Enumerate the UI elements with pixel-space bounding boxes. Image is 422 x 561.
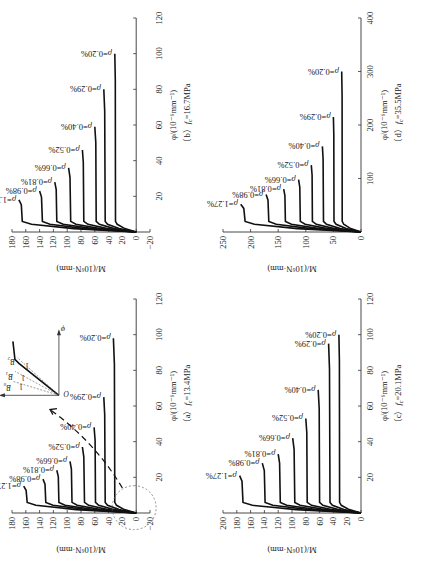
series-label: ρ=0.66% bbox=[35, 163, 67, 173]
series-label: ρ=0.81% bbox=[21, 177, 53, 187]
series-label: ρ=0.20% bbox=[305, 330, 337, 340]
y-tick-label: 200 bbox=[218, 517, 228, 530]
panel-d: 050100150200250100200300400M/(10⁶N·mm)φ/… bbox=[211, 0, 422, 280]
y-tick-label: 60 bbox=[315, 517, 325, 526]
y-tick-label: 140 bbox=[259, 517, 269, 530]
y-tick-label: 0 bbox=[131, 236, 141, 240]
x-tick-label: 20 bbox=[154, 192, 164, 201]
x-axis-label: φ/(10⁻⁶mm⁻¹) bbox=[168, 90, 178, 140]
y-tick-label: 0 bbox=[131, 517, 141, 521]
series-label: ρ=0.66% bbox=[265, 175, 297, 185]
series-label: ρ=0.52% bbox=[49, 145, 81, 155]
series-line bbox=[113, 338, 136, 513]
x-tick-label: 60 bbox=[365, 402, 375, 411]
y-tick-label: 140 bbox=[35, 236, 45, 249]
chart-b: −200204060801001201401601802040608010012… bbox=[0, 0, 211, 280]
x-tick-label: 40 bbox=[365, 437, 375, 446]
y-tick-label: 160 bbox=[21, 236, 31, 249]
y-tick-label: 120 bbox=[48, 517, 58, 530]
y-tick-label: 100 bbox=[301, 236, 311, 249]
x-tick-label: 40 bbox=[154, 437, 164, 446]
y-tick-label: 20 bbox=[342, 517, 352, 526]
x-tick-label: 100 bbox=[365, 172, 375, 185]
series-line bbox=[69, 168, 137, 232]
series-label: ρ=0.20% bbox=[80, 333, 112, 343]
series-label: ρ=0.29% bbox=[300, 112, 332, 122]
panel-caption: （a）fc=13.4MPa bbox=[182, 364, 193, 427]
y-axis-label: M/(10⁶N·mm) bbox=[56, 545, 105, 555]
series-label: ρ=0.81% bbox=[244, 449, 276, 459]
series-line bbox=[82, 447, 136, 513]
svg-text:φ: φ bbox=[61, 325, 65, 334]
series-label: ρ=0.66% bbox=[259, 433, 291, 443]
x-tick-label: 40 bbox=[154, 156, 164, 165]
x-tick-label: 100 bbox=[365, 328, 375, 341]
y-tick-label: 80 bbox=[76, 236, 86, 245]
y-tick-label: 60 bbox=[90, 236, 100, 245]
y-tick-label: 0 bbox=[356, 236, 366, 240]
series-line bbox=[104, 397, 136, 513]
series-line bbox=[82, 150, 136, 232]
y-tick-label: 120 bbox=[48, 236, 58, 249]
x-tick-label: 120 bbox=[154, 12, 164, 25]
y-tick-label: 100 bbox=[287, 517, 297, 530]
y-tick-label: 40 bbox=[104, 236, 114, 245]
series-label: ρ=1.27% bbox=[206, 471, 238, 481]
y-tick-label: 120 bbox=[273, 517, 283, 530]
x-tick-label: 60 bbox=[154, 402, 164, 411]
y-tick-label: 0 bbox=[356, 517, 366, 521]
y-tick-label: 100 bbox=[62, 236, 72, 249]
series-line bbox=[115, 54, 136, 232]
panel-caption: （c）fc=20.1MPa bbox=[393, 364, 404, 427]
chart-c: 0204060801001201401601802002040608010012… bbox=[211, 281, 422, 561]
y-tick-label: 250 bbox=[218, 236, 228, 249]
series-line bbox=[342, 72, 361, 233]
y-tick-label: 200 bbox=[246, 236, 256, 249]
y-tick-label: 180 bbox=[232, 517, 242, 530]
y-tick-label: 20 bbox=[117, 517, 127, 526]
x-tick-label: 80 bbox=[365, 366, 375, 375]
x-axis-label: φ/(10⁻⁶mm⁻¹) bbox=[379, 371, 389, 421]
y-tick-label: 100 bbox=[62, 517, 72, 530]
y-tick-label: −20 bbox=[145, 236, 155, 249]
series-label: ρ=0.52% bbox=[49, 442, 81, 452]
chart-d: 050100150200250100200300400M/(10⁶N·mm)φ/… bbox=[211, 0, 422, 280]
series-label: ρ=0.81% bbox=[250, 184, 282, 194]
x-tick-label: 60 bbox=[154, 121, 164, 130]
y-axis-label: M/(10⁶N·mm) bbox=[267, 545, 316, 555]
panel-caption: （d）fc=35.5MPa bbox=[393, 83, 404, 146]
y-tick-label: 20 bbox=[117, 236, 127, 245]
y-tick-label: 40 bbox=[328, 517, 338, 526]
x-axis-label: φ/(10⁻⁶mm⁻¹) bbox=[168, 371, 178, 421]
x-tick-label: 80 bbox=[154, 366, 164, 375]
x-tick-label: 100 bbox=[154, 328, 164, 341]
series-line bbox=[333, 117, 361, 232]
x-tick-label: 120 bbox=[154, 293, 164, 306]
y-axis-label: M/(10⁶N·mm) bbox=[56, 264, 105, 274]
inset-diagram: MφOB₀B₁B₂111 bbox=[0, 325, 69, 406]
y-tick-label: 150 bbox=[273, 236, 283, 249]
panel-caption: （b）fc=16.7MPa bbox=[182, 83, 193, 146]
svg-text:1: 1 bbox=[21, 373, 25, 382]
series-label: ρ=0.40% bbox=[61, 122, 93, 132]
series-line bbox=[339, 335, 361, 513]
series-label: ρ=0.20% bbox=[308, 67, 340, 77]
series-line bbox=[299, 180, 361, 232]
svg-text:B₁: B₁ bbox=[5, 372, 13, 381]
series-line bbox=[293, 438, 361, 513]
y-axis-label: M/(10⁶N·mm) bbox=[267, 264, 316, 274]
y-tick-label: −20 bbox=[145, 517, 155, 530]
y-tick-label: 80 bbox=[301, 517, 311, 526]
x-tick-label: 200 bbox=[365, 119, 375, 132]
svg-text:1: 1 bbox=[25, 361, 29, 370]
x-tick-label: 120 bbox=[365, 293, 375, 306]
series-label: ρ=0.20% bbox=[81, 49, 113, 59]
x-tick-label: 20 bbox=[365, 473, 375, 482]
series-label: ρ=1.27% bbox=[207, 199, 239, 209]
x-tick-label: 300 bbox=[365, 65, 375, 78]
series-label: ρ=0.40% bbox=[284, 385, 316, 395]
series-label: ρ=0.66% bbox=[36, 456, 68, 466]
y-tick-label: 180 bbox=[7, 236, 17, 249]
chart-a: −200204060801001201401601802040608010012… bbox=[0, 281, 211, 561]
series-line bbox=[311, 165, 361, 232]
